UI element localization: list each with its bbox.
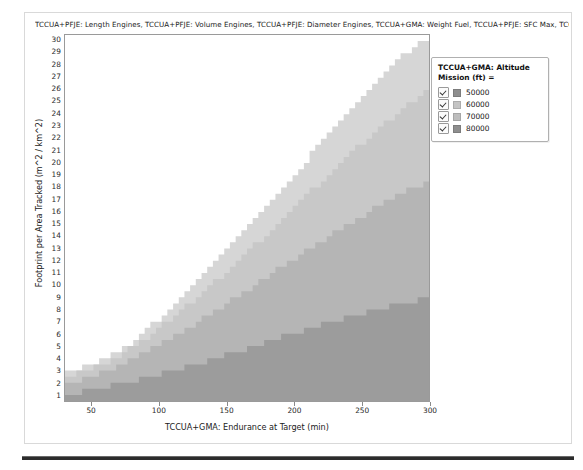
y-tick-label: 4 (35, 355, 61, 363)
legend-checkbox-icon[interactable] (438, 87, 449, 98)
legend-checkbox-icon[interactable] (438, 99, 449, 110)
contour-bands-layer (65, 35, 429, 401)
x-tick-mark (430, 402, 431, 406)
legend-item-label: 60000 (466, 100, 490, 109)
legend-rows: 50000600007000080000 (438, 87, 542, 134)
x-tick-mark (91, 402, 92, 406)
legend-checkbox-icon[interactable] (438, 123, 449, 134)
y-tick-label: 1 (35, 392, 61, 400)
legend-panel[interactable]: TCCUA+GMA: Altitude Mission (ft) = 50000… (431, 57, 549, 142)
y-tick-label: 29 (35, 48, 61, 56)
legend-item-label: 70000 (466, 112, 490, 121)
x-tick-mark (294, 402, 295, 406)
x-tick-label: 50 (71, 406, 111, 415)
y-tick-label: 5 (35, 343, 61, 351)
legend-item-70000[interactable]: 70000 (438, 111, 542, 122)
y-tick-label: 28 (35, 61, 61, 69)
x-tick-mark (362, 402, 363, 406)
contour-band-50000 (65, 35, 429, 401)
legend-color-swatch (453, 89, 461, 97)
legend-item-label: 80000 (466, 124, 490, 133)
x-tick-mark (159, 402, 160, 406)
legend-title: TCCUA+GMA: Altitude Mission (ft) = (438, 63, 542, 83)
x-tick-label: 300 (410, 406, 450, 415)
chart-panel: TCCUA+PFJE: Length Engines, TCCUA+PFJE: … (24, 12, 572, 444)
legend-item-60000[interactable]: 60000 (438, 99, 542, 110)
y-tick-label: 7 (35, 318, 61, 326)
plot-area[interactable] (64, 34, 430, 402)
y-tick-label: 6 (35, 331, 61, 339)
legend-item-label: 50000 (466, 88, 490, 97)
x-tick-label: 250 (342, 406, 382, 415)
legend-color-swatch (453, 101, 461, 109)
x-tick-label: 200 (274, 406, 314, 415)
legend-color-swatch (453, 113, 461, 121)
screenshot-root: TCCUA+PFJE: Length Engines, TCCUA+PFJE: … (0, 0, 583, 470)
x-tick-label: 100 (139, 406, 179, 415)
x-axis-title: TCCUA+GMA: Endurance at Target (min) (64, 422, 430, 432)
legend-item-80000[interactable]: 80000 (438, 123, 542, 134)
y-axis-title: Footprint per Area Tracked (m^2 / km^2) (34, 103, 44, 303)
chart-title: TCCUA+PFJE: Length Engines, TCCUA+PFJE: … (35, 19, 569, 31)
legend-color-swatch (453, 125, 461, 133)
y-tick-label: 30 (35, 36, 61, 44)
y-tick-label: 27 (35, 73, 61, 81)
y-tick-label: 26 (35, 85, 61, 93)
x-axis-ticks: 50100150200250300 (64, 406, 430, 418)
legend-item-50000[interactable]: 50000 (438, 87, 542, 98)
x-tick-mark (227, 402, 228, 406)
x-tick-label: 150 (207, 406, 247, 415)
y-tick-label: 8 (35, 306, 61, 314)
bottom-divider (22, 456, 574, 460)
y-tick-label: 3 (35, 367, 61, 375)
y-tick-label: 2 (35, 380, 61, 388)
legend-checkbox-icon[interactable] (438, 111, 449, 122)
